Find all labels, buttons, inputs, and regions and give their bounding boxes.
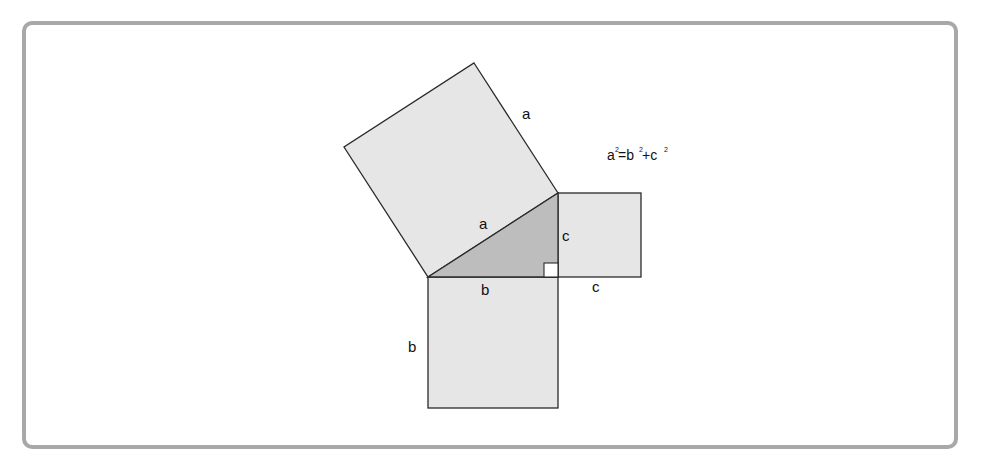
equation: a 2 =b 2 +c 2 (607, 146, 668, 163)
square-b (428, 277, 558, 408)
label-square-b-side: b (408, 338, 416, 355)
equation-eq-b: =b (618, 147, 634, 163)
pythagoras-diagram: a a c b c b a 2 =b 2 +c 2 (0, 0, 985, 472)
label-hypotenuse-a: a (479, 215, 488, 232)
equation-exp-3: 2 (664, 146, 668, 153)
label-square-c-side: c (592, 278, 600, 295)
right-angle-marker (544, 263, 558, 277)
equation-plus-c: +c (642, 147, 657, 163)
label-leg-b: b (481, 281, 489, 298)
square-c (558, 193, 641, 277)
equation-a: a (607, 147, 615, 163)
label-leg-c: c (562, 227, 570, 244)
label-square-a-side: a (522, 105, 531, 122)
